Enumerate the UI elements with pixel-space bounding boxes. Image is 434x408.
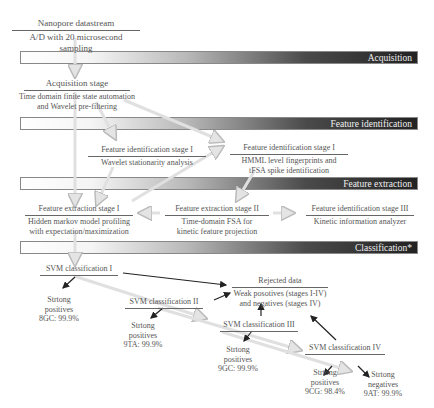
node-fex-stage-1: Feature extraction stage I Hidden markov… [25,204,133,237]
node-title: SVM classification IV [305,343,385,355]
node-body: Wavelet stationarity analysis [88,157,206,168]
node-body: HMML level fingerprints and [230,155,348,166]
result-value: 9TA: 99.9% [118,340,168,350]
node-fex-stage-2: Feature extraction stage II Time-domain … [165,204,269,237]
result-line: positives [213,355,263,365]
node-body: Weak posotives (stages I-IV) [232,288,328,299]
node-fid-stage-wavelet: Feature identification stage I Wavelet s… [88,145,206,168]
result-value: 8GC: 99.9% [34,314,84,324]
node-body: A/D with 20 microsecond sampling [12,31,140,54]
node-body: Hidden markov model profiling [25,216,133,227]
node-title: SVM classification II [125,297,203,309]
node-svm-1: SVM classification I [40,264,118,276]
result-line: positives [34,305,84,315]
node-title: Feature extraction stage I [25,204,133,216]
node-svm-4: SVM classification IV [305,343,385,355]
node-body: tFSA spike identification [230,166,348,176]
node-acquisition-stage: Acquisition stage Time domain finite sta… [14,78,140,111]
result-line: positives [300,378,350,388]
result-strong-positives-8gc: Strtong positives 8GC: 99.9% [34,295,84,324]
node-body: with expectation/maximization [25,227,133,237]
node-body: Time-domain FSA for [165,216,269,227]
node-body: kinetic feature projection [165,227,269,237]
node-body: Time domain finite state automation [14,91,140,102]
node-title: Acquisition stage [24,78,130,91]
node-title: SVM classification III [220,320,298,332]
node-title: SVM classification I [40,264,118,276]
result-value: 9AT: 99.9% [358,389,408,399]
node-fid-stage-3: Feature identification stage III Kinetic… [306,204,414,227]
result-strong-negatives-9at: Strtong negatives 9AT: 99.9% [358,370,408,399]
result-line: negatives [358,380,408,390]
node-title: Feature identification stage I [230,143,348,155]
result-value: 9GC: 99.9% [213,364,263,374]
result-value: 9CG: 98.4% [300,387,350,397]
result-line: positives [118,331,168,341]
node-title: Feature identification stage III [306,204,414,216]
result-line: Strtong [213,345,263,355]
node-title: Rejected data [232,276,328,288]
result-line: Strtong [34,295,84,305]
result-line: Strtong [300,368,350,378]
result-strong-positives-9cg: Strtong positives 9CG: 98.4% [300,368,350,397]
node-body: and negatives (stages IV) [232,299,328,309]
node-body: Kinetic information analyzer [306,216,414,227]
node-title: Feature extraction stage II [165,204,269,216]
node-body: and Wavelet pre-filtering [14,102,140,112]
node-svm-2: SVM classification II [125,297,203,309]
result-line: Strtong [118,321,168,331]
node-fid-stage-hmm: Feature identification stage I HMML leve… [230,143,348,176]
result-strong-positives-9ta: Strtong positives 9TA: 99.9% [118,321,168,350]
node-rejected-data: Rejected data Weak posotives (stages I-I… [232,276,328,309]
node-title: Feature identification stage I [88,145,206,157]
node-nanopore-datastream: Nanopore datastream A/D with 20 microsec… [12,18,140,54]
result-strong-positives-9gc: Strtong positives 9GC: 99.9% [213,345,263,374]
node-svm-3: SVM classification III [220,320,298,332]
node-title: Nanopore datastream [12,18,140,31]
result-line: Strtong [358,370,408,380]
